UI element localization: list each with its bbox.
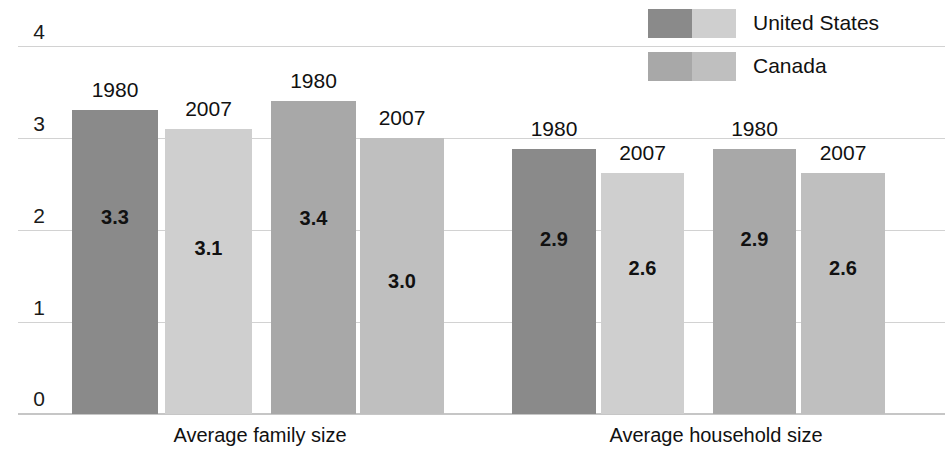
group-label-average-household-size: Average household size — [596, 424, 836, 447]
bar-value-label: 2.9 — [713, 228, 796, 251]
bar-year-label: 2007 — [165, 97, 252, 121]
legend-swatch-half-dark — [648, 52, 692, 81]
legend: United States Canada — [648, 6, 879, 92]
bar-year-label: 2007 — [801, 141, 885, 165]
legend-item-canada[interactable]: Canada — [648, 49, 879, 83]
bar-year-label: 1980 — [72, 78, 158, 102]
legend-swatch-half-dark — [648, 9, 692, 38]
group-label-average-family-size: Average family size — [160, 424, 360, 447]
legend-swatch-canada — [648, 52, 736, 81]
bar-ca-family-1980[interactable]: 1980 3.4 — [271, 101, 356, 414]
bar-year-label: 2007 — [601, 141, 684, 165]
bar-value-label: 3.1 — [165, 237, 252, 260]
legend-label-canada: Canada — [753, 54, 827, 78]
bar-value-label: 3.0 — [360, 270, 444, 293]
bar-value-label: 3.3 — [72, 206, 158, 229]
legend-swatch-half-light — [692, 52, 736, 81]
legend-swatch-united-states — [648, 9, 736, 38]
legend-item-united-states[interactable]: United States — [648, 6, 879, 40]
legend-label-united-states: United States — [753, 11, 879, 35]
y-axis-tick-3: 3 — [22, 112, 56, 136]
bar-year-label: 1980 — [512, 117, 596, 141]
bar-us-household-2007[interactable]: 2007 2.6 — [601, 173, 684, 414]
y-axis-tick-4: 4 — [22, 20, 56, 44]
bar-chart: 4 3 2 1 0 1980 3.3 2007 3.1 1980 3.4 200… — [0, 0, 945, 464]
bar-value-label: 2.6 — [601, 257, 684, 280]
bar-us-family-2007[interactable]: 2007 3.1 — [165, 129, 252, 414]
legend-swatch-half-light — [692, 9, 736, 38]
y-axis-tick-1: 1 — [22, 296, 56, 320]
bar-year-label: 2007 — [360, 106, 444, 130]
bar-value-label: 3.4 — [271, 207, 356, 230]
bar-ca-family-2007[interactable]: 2007 3.0 — [360, 138, 444, 414]
bar-year-label: 1980 — [713, 117, 796, 141]
bar-year-label: 1980 — [271, 69, 356, 93]
bar-us-family-1980[interactable]: 1980 3.3 — [72, 110, 158, 414]
y-axis-tick-0: 0 — [22, 387, 56, 411]
bar-ca-household-1980[interactable]: 1980 2.9 — [713, 149, 796, 414]
bar-value-label: 2.6 — [801, 257, 885, 280]
bar-value-label: 2.9 — [512, 228, 596, 251]
bar-ca-household-2007[interactable]: 2007 2.6 — [801, 173, 885, 414]
bar-us-household-1980[interactable]: 1980 2.9 — [512, 149, 596, 414]
y-axis-tick-2: 2 — [22, 204, 56, 228]
